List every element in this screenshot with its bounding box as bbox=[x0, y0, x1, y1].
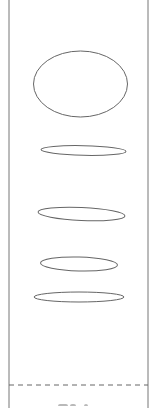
clipped-bottom-label bbox=[56, 403, 96, 408]
diagram-svg bbox=[0, 0, 166, 408]
large-ellipse bbox=[34, 51, 128, 117]
glyph-fragment bbox=[70, 404, 76, 406]
thin-ellipse-2 bbox=[38, 206, 125, 223]
thin-ellipse-1 bbox=[41, 145, 126, 156]
thin-ellipse-4 bbox=[34, 292, 124, 302]
diagram-canvas bbox=[0, 0, 166, 408]
thin-ellipse-3 bbox=[40, 256, 117, 272]
glyph-fragment bbox=[58, 404, 68, 406]
glyph-fragment bbox=[84, 404, 88, 406]
